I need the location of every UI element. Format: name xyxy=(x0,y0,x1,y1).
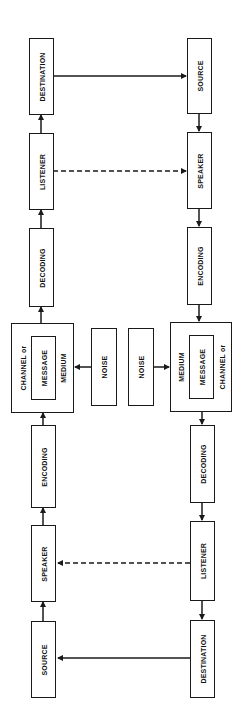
box-label: ENCODING xyxy=(40,447,47,486)
left-channel-box: CHANNEL or MESSAGE MEDIUM xyxy=(11,323,74,413)
channel-label: CHANNEL or xyxy=(20,345,27,390)
left-speaker-box: SPEAKER xyxy=(31,525,56,602)
box-label: ENCODING xyxy=(196,246,203,285)
right-channel-box: MEDIUM MESSAGE CHANNEL or xyxy=(170,322,232,412)
right-destination-box: DESTINATION xyxy=(190,620,215,698)
left-encoding-box: ENCODING xyxy=(31,425,56,508)
medium-label: MEDIUM xyxy=(178,352,185,382)
noise-box-right: NOISE xyxy=(128,328,154,406)
message-label: MESSAGE xyxy=(40,350,47,386)
box-label: LISTENER xyxy=(199,543,206,579)
box-label: DESTINATION xyxy=(38,52,45,101)
noise-label: NOISE xyxy=(101,356,108,379)
box-label: DECODING xyxy=(38,248,45,287)
right-encoding-box: ENCODING xyxy=(187,227,212,305)
right-decoding-box: DECODING xyxy=(190,425,215,503)
box-label: DESTINATION xyxy=(199,634,206,683)
box-label: SOURCE xyxy=(196,60,203,91)
medium-label: MEDIUM xyxy=(60,353,67,383)
box-label: SOURCE xyxy=(40,644,47,675)
box-label: DECODING xyxy=(199,444,206,483)
noise-box-left: NOISE xyxy=(91,328,117,406)
message-label: MESSAGE xyxy=(198,349,205,385)
box-label: LISTENER xyxy=(38,153,45,189)
left-decoding-box: DECODING xyxy=(29,228,54,307)
box-label: SPEAKER xyxy=(40,546,47,581)
right-message-box: MESSAGE xyxy=(189,335,214,399)
left-destination-box: DESTINATION xyxy=(29,38,54,115)
box-label: SPEAKER xyxy=(196,153,203,188)
noise-label: NOISE xyxy=(138,356,145,379)
right-speaker-box: SPEAKER xyxy=(187,132,212,209)
left-message-box: MESSAGE xyxy=(31,336,56,400)
right-listener-box: LISTENER xyxy=(190,521,215,601)
right-source-box: SOURCE xyxy=(187,38,212,114)
left-source-box: SOURCE xyxy=(31,621,56,698)
left-listener-box: LISTENER xyxy=(29,133,54,210)
channel-label: CHANNEL or xyxy=(219,344,226,389)
